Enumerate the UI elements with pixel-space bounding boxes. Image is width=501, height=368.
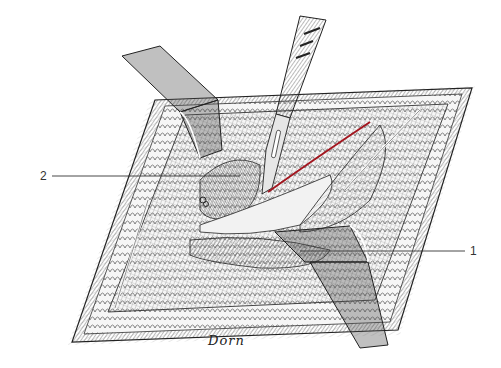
surgical-illustration: 2 1 Dorn	[0, 0, 501, 368]
artist-signature: Dorn	[208, 333, 245, 348]
illustration-canvas	[0, 0, 501, 368]
label-1: 1	[470, 245, 477, 257]
label-2: 2	[40, 170, 47, 182]
